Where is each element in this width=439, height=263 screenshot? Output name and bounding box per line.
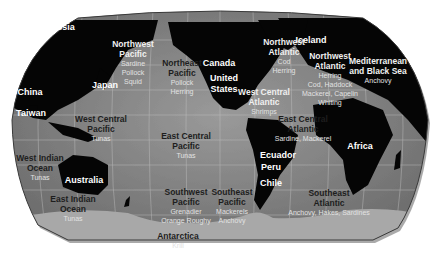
region-name: East Indian	[50, 194, 95, 204]
species-label: Anchovy	[349, 76, 407, 85]
region-name: Atlantic	[288, 198, 370, 208]
region-name: Northeast	[162, 58, 202, 68]
species-label: Tunas	[75, 134, 127, 143]
fishing-region-label: NortheastPacificPollockHerring	[162, 58, 202, 96]
country-label: Canada	[203, 58, 236, 68]
country-label: Australia	[65, 175, 104, 185]
region-name: West Indian	[16, 153, 64, 163]
species-label: Mackerel, Capelin	[302, 89, 358, 98]
species-label: Tunas	[161, 151, 211, 160]
species-label: Tunas	[16, 173, 64, 182]
region-name: Antarctica	[157, 231, 199, 241]
fishing-region-label: AntarcticaKrill	[157, 231, 199, 250]
species-label: Orange Roughy	[161, 216, 210, 225]
region-name: Pacific	[161, 141, 211, 151]
region-name: and Black Sea	[349, 66, 407, 76]
fishing-region-label: West CentralPacificTunas	[75, 114, 127, 143]
country-label: Chile	[260, 178, 282, 188]
fishing-region-label: SouthwestPacificGrenadierOrange Roughy	[161, 187, 210, 225]
region-name: East Central	[275, 114, 331, 124]
region-name: Pacific	[161, 197, 210, 207]
species-label: Mackerels	[211, 207, 252, 216]
region-name: West Central	[75, 114, 127, 124]
species-label: Grenadier	[161, 207, 210, 216]
region-name: Atlantic	[263, 47, 305, 57]
region-name: Pacific	[162, 68, 202, 78]
country-label: States	[210, 84, 237, 94]
fishing-region-label: NorthwestAtlanticCodHerring	[263, 37, 305, 75]
region-name: Northwest	[112, 39, 154, 49]
fishing-region-label: East IndianOceanTunas	[50, 194, 95, 223]
country-label: Russia	[45, 22, 75, 32]
species-label: Pollock	[162, 78, 202, 87]
fishing-region-label: East CentralPacificTunas	[161, 131, 211, 160]
fishing-region-label: West IndianOceanTunas	[16, 153, 64, 182]
fishing-region-label: SoutheastAtlanticAnchovy, Hakes, Sardine…	[288, 188, 370, 217]
fishing-region-label: West CentralAtlanticShrimps	[238, 87, 290, 116]
species-label: Cod	[263, 57, 305, 66]
species-label: Herring	[162, 87, 202, 96]
region-name: West Central	[238, 87, 290, 97]
species-label: Sardine	[112, 59, 154, 68]
species-label: Squid	[112, 77, 154, 86]
region-name: Southeast	[288, 188, 370, 198]
region-name: Southeast	[211, 187, 252, 197]
region-name: Atlantic	[275, 124, 331, 134]
region-name: Ocean	[50, 204, 95, 214]
region-name: East Central	[161, 131, 211, 141]
country-label: Ecuador	[260, 150, 296, 160]
region-name: Atlantic	[238, 97, 290, 107]
region-name: Pacific	[75, 124, 127, 134]
country-label: Taiwan	[16, 108, 46, 118]
region-name: Ocean	[16, 163, 64, 173]
region-name: Pacific	[211, 197, 252, 207]
country-label: Peru	[261, 162, 281, 172]
country-label: China	[17, 87, 42, 97]
fishing-region-label: SoutheastPacificMackerelsAnchovy	[211, 187, 252, 225]
region-name: Northwest	[263, 37, 305, 47]
region-name: Pacific	[112, 49, 154, 59]
fishing-region-label: NorthwestPacificSardinePollockSquid	[112, 39, 154, 86]
species-label: Sardine, Mackerel	[275, 134, 331, 143]
species-label: Pollock	[112, 68, 154, 77]
species-label: Tunas	[50, 214, 95, 223]
fishing-region-label: East CentralAtlanticSardine, Mackerel	[275, 114, 331, 143]
species-label: Anchovy	[211, 216, 252, 225]
region-name: Mediterranean	[349, 56, 407, 66]
species-label: Krill	[157, 241, 199, 250]
species-label: Whiting	[302, 98, 358, 107]
species-label: Herring	[263, 66, 305, 75]
region-name: Southwest	[161, 187, 210, 197]
country-label: Africa	[347, 141, 373, 151]
country-label: United	[210, 73, 238, 83]
species-label: Anchovy, Hakes, Sardines	[288, 208, 370, 217]
fishing-region-label: Mediterraneanand Black SeaAnchovy	[349, 56, 407, 85]
